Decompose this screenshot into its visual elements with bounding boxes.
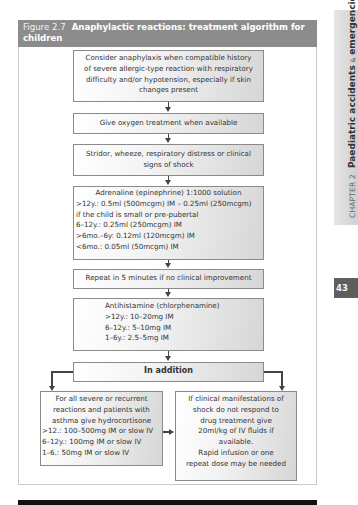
text-line: 6–12y.: 0.25ml (250mcgm) IM — [76, 220, 261, 231]
text-line: available. — [177, 437, 295, 448]
chapter-tab-label: CHAPTER 2 Paediatric accidents & emergen… — [346, 0, 358, 218]
figure-header: Figure 2.7 Anaphylactic reactions: treat… — [18, 20, 317, 47]
connector-right — [264, 371, 282, 373]
chapter-number: CHAPTER 2 — [348, 174, 357, 218]
text-line: >12y.: 10–20mg IM — [105, 312, 260, 323]
text-line: Give oxygen treatment when available — [77, 118, 260, 129]
arrow-down-icon — [168, 102, 170, 108]
connector-left — [51, 371, 73, 373]
text-line: reactions and patients with — [42, 405, 161, 416]
text-line: changes present — [77, 85, 260, 96]
text-line: Rapid infusion or one — [177, 448, 295, 459]
text-line: >12.: 100–500mg IM or slow IV — [42, 426, 161, 437]
branch-hydrocortisone: For all severe or recurrent reactions an… — [40, 391, 163, 466]
text-line: Stridor, wheeze, respiratory distress or… — [77, 149, 260, 160]
text-line: difficulty and/or hypotension, especiall… — [77, 75, 260, 86]
arrow-down-icon — [168, 289, 170, 293]
text-line: drug treatment give — [177, 416, 295, 427]
step-oxygen: Give oxygen treatment when available — [73, 113, 264, 134]
text-line: 6–12y.: 5–10mg IM — [105, 323, 260, 334]
figure-number: Figure 2.7 — [23, 22, 66, 32]
text-line: >6mo.–6y: 0.12ml (120mcgm) IM — [76, 231, 261, 242]
text-line: Repeat in 5 minutes if no clinical impro… — [77, 273, 260, 284]
text-line: of severe allergic-type reaction with re… — [77, 64, 260, 75]
step-antihistamine: Antihistamine (chlorphenamine) >12y.: 10… — [73, 298, 264, 351]
text-line: Adrenaline (epinephrine) 1:1000 solution — [76, 188, 261, 199]
step-repeat: Repeat in 5 minutes if no clinical impro… — [73, 269, 264, 289]
text-line: >12y.: 0.5ml (500mcgm) IM – 0.25ml (250m… — [76, 199, 261, 210]
page-number: 43 — [334, 278, 358, 298]
text-line: 1–6.: 50mg IM or slow IV — [42, 448, 161, 459]
step-clinical-signs: Stridor, wheeze, respiratory distress or… — [73, 144, 264, 176]
text-line: For all severe or recurrent — [42, 394, 161, 405]
text-line: signs of shock — [77, 160, 260, 171]
chapter-title-amp: & — [349, 58, 356, 63]
text-line: Consider anaphylaxis when compatible his… — [77, 53, 260, 64]
step-adrenaline: Adrenaline (epinephrine) 1:1000 solution… — [73, 186, 264, 260]
arrow-down-icon — [168, 176, 170, 181]
chapter-title-part1: Paediatric accidents — [347, 65, 357, 168]
text-line: asthma give hydrocortisone — [42, 416, 161, 427]
branch-iv-fluids: If clinical manifestations of shock do n… — [175, 391, 297, 481]
text-line: 20ml/kg of IV fluids if — [177, 426, 295, 437]
step-consider-anaphylaxis: Consider anaphylaxis when compatible his… — [73, 50, 264, 102]
text-line: shock do not respond to — [177, 405, 295, 416]
text-line: <6mo.: 0.05ml (50mcgm) IM — [76, 242, 261, 253]
arrow-down-icon — [281, 371, 283, 387]
arrow-down-icon — [168, 260, 170, 264]
text-line: if the child is small or pre-pubertal — [76, 210, 261, 221]
arrow-right-icon — [163, 431, 170, 433]
text-line: If clinical manifestations of — [177, 394, 295, 405]
arrow-down-icon — [51, 371, 53, 387]
step-in-addition: In addition — [73, 362, 264, 382]
text-line: repeat dose may be needed — [177, 459, 295, 470]
text-line: Antihistamine (chlorphenamine) — [105, 301, 260, 312]
chapter-title-part2: emergencies — [347, 0, 357, 55]
text-line: In addition — [77, 366, 260, 377]
bottom-rule — [18, 500, 317, 505]
arrow-down-icon — [168, 134, 170, 139]
text-line: 1–6y.: 2.5–5mg IM — [105, 333, 260, 344]
text-line: 6–12y.: 100mg IM or slow IV — [42, 437, 161, 448]
arrow-down-icon — [168, 351, 170, 357]
